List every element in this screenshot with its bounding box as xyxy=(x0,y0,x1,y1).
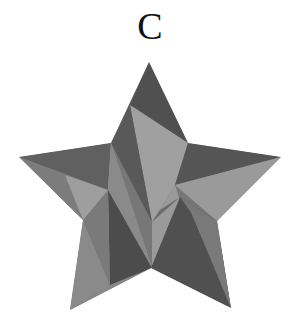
faceted-star-icon xyxy=(0,0,300,324)
star-facets xyxy=(19,62,281,310)
